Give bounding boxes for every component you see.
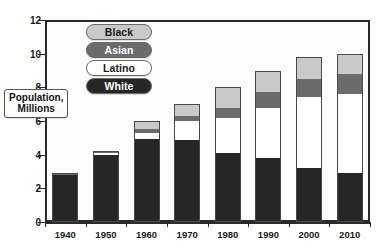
bar-segment-1970-black[interactable] [174,104,200,116]
x-tick-mark [167,222,168,227]
bar-1960[interactable] [134,121,160,222]
bar-segment-1990-latino[interactable] [255,108,281,159]
chart-legend: BlackAsianLatinoWhite [86,24,152,94]
y-tick-label: 10 [30,48,41,59]
bar-segment-1960-white[interactable] [134,139,160,221]
bar-segment-1980-white[interactable] [215,153,241,222]
bar-1970[interactable] [174,104,200,222]
x-tick-mark [126,222,127,227]
bar-segment-2000-black[interactable] [296,57,322,79]
y-axis-title: Population, Millions [4,89,68,118]
bar-1950[interactable] [93,151,119,222]
bar-1980[interactable] [215,87,241,222]
bar-segment-2000-asian[interactable] [296,79,322,98]
bar-segment-1950-white[interactable] [93,155,119,222]
bar-segment-2010-white[interactable] [337,173,363,222]
bar-segment-1940-white[interactable] [52,175,78,222]
x-tick-mark [370,222,371,227]
chart-root: 024681012 194019501960197019801990200020… [0,0,382,250]
bar-segment-1960-latino[interactable] [134,133,160,140]
x-tick-label-1960: 1960 [136,229,157,240]
y-tick-label: 0 [35,217,41,228]
bar-1990[interactable] [255,71,281,223]
x-tick-mark [208,222,209,227]
bar-segment-1980-black[interactable] [215,87,241,107]
bar-segment-2000-white[interactable] [296,168,322,222]
y-axis [45,20,47,222]
y-tick-label: 12 [30,15,41,26]
x-tick-label-1950: 1950 [95,229,116,240]
x-tick-label-2000: 2000 [298,229,319,240]
x-tick-mark [86,222,87,227]
x-tick-mark [289,222,290,227]
bar-segment-2010-latino[interactable] [337,94,363,173]
legend-item-white[interactable]: White [86,78,152,94]
y-axis-title-line2: Millions [9,103,63,114]
bar-segment-1980-latino[interactable] [215,118,241,153]
bar-segment-2010-black[interactable] [337,54,363,74]
x-tick-label-2010: 2010 [339,229,360,240]
bar-segment-1990-black[interactable] [255,71,281,93]
x-tick-label-1970: 1970 [177,229,198,240]
y-tick-label: 4 [35,149,41,160]
bar-segment-1990-white[interactable] [255,158,281,222]
y-tick-label: 2 [35,183,41,194]
bar-segment-2010-asian[interactable] [337,74,363,94]
bar-segment-2000-latino[interactable] [296,97,322,168]
bar-2010[interactable] [337,54,363,222]
x-tick-mark [329,222,330,227]
bar-segment-1970-white[interactable] [174,140,200,222]
bar-segment-1990-asian[interactable] [255,92,281,107]
y-axis-title-line1: Population, [9,92,63,103]
bar-segment-1980-asian[interactable] [215,108,241,118]
x-tick-label-1990: 1990 [258,229,279,240]
bar-2000[interactable] [296,57,322,222]
x-tick-mark [248,222,249,227]
legend-item-black[interactable]: Black [86,24,152,40]
x-tick-mark [45,222,46,227]
x-tick-label-1980: 1980 [217,229,238,240]
bar-segment-1970-latino[interactable] [174,121,200,140]
bar-1940[interactable] [52,173,78,222]
legend-item-asian[interactable]: Asian [86,42,152,58]
legend-item-latino[interactable]: Latino [86,60,152,76]
x-tick-label-1940: 1940 [55,229,76,240]
bar-segment-1960-black[interactable] [134,121,160,129]
